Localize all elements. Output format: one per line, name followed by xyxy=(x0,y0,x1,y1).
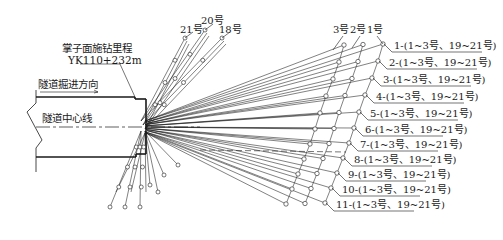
section-label: 3-(1~3号、19~21号) xyxy=(383,75,485,85)
face-mileage-value: YK110+232m xyxy=(68,55,142,66)
hole-2-label: 2号 xyxy=(350,25,366,35)
direction-label: 隧道掘进方向 xyxy=(38,79,98,90)
section-label: 4-(1~3号、19~21号) xyxy=(376,92,478,102)
section-label: 2-(1~3号、19~21号) xyxy=(389,58,491,68)
section-label: 1-(1~3号、19~21号) xyxy=(394,41,496,51)
section-label: 10-(1~3号、19~21号) xyxy=(342,185,451,195)
section-label: 11-(1~3号、19~21号) xyxy=(336,200,445,210)
section-label: 7-(1~3号、19~21号) xyxy=(360,140,462,150)
section-label: 8-(1~3号、19~21号) xyxy=(354,155,456,165)
section-label: 5-(1~3号、19~21号) xyxy=(370,109,472,119)
section-label: 6-(1~3号、19~21号) xyxy=(365,125,467,135)
borehole-fan xyxy=(110,30,383,207)
hole-21-label: 21号 xyxy=(180,25,203,35)
face-mileage-label: 掌子面施钻里程 xyxy=(62,43,132,54)
hole-18-label: 18号 xyxy=(219,25,242,35)
section-label: 9-(1~3号、19~21号) xyxy=(348,170,450,180)
hole-3-label: 3号 xyxy=(333,25,349,35)
centerline-label: 隧道中心线 xyxy=(42,113,92,124)
hole-1-label: 1号 xyxy=(367,25,383,35)
